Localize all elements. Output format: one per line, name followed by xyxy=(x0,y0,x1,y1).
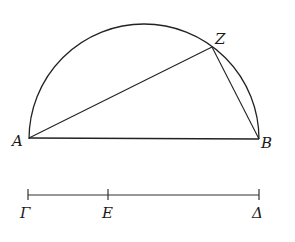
label-gamma: Γ xyxy=(19,204,31,222)
label-A: A xyxy=(10,132,23,150)
figure-svg: A B Z Γ E Δ xyxy=(0,0,295,242)
segment-AB xyxy=(29,138,259,139)
label-delta: Δ xyxy=(251,204,263,222)
label-E: E xyxy=(101,204,113,222)
segment-ZB xyxy=(212,47,259,139)
label-Z: Z xyxy=(214,30,226,48)
label-B: B xyxy=(260,134,272,152)
segment-AZ xyxy=(29,47,212,138)
geometry-figure: A B Z Γ E Δ xyxy=(0,0,295,242)
